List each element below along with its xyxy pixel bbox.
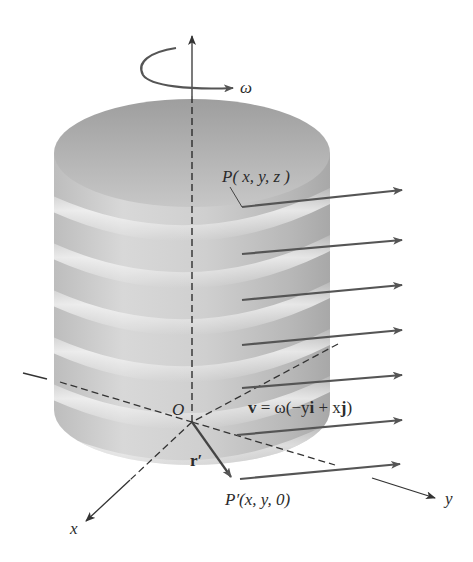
velocity-arrow — [240, 464, 400, 479]
velocity-eq-part2: + x — [314, 398, 341, 417]
omega-label: ω — [240, 78, 252, 97]
point-p-label: P( x, y, z ) — [221, 167, 290, 186]
axis-x-label: x — [69, 519, 78, 538]
point-p-prime-label: P′(x, y, 0) — [224, 490, 290, 509]
velocity-eq-part1: = ω(−y — [257, 398, 311, 417]
velocity-equation: v = ω(−yi + xj) — [248, 398, 352, 417]
rotation-arrow-icon — [141, 48, 233, 88]
r-prime-label: r′ — [190, 451, 202, 470]
velocity-j: j — [340, 398, 347, 417]
cylinder-diagram: ω x y P( x, y, z ) O v = ω(−yi + xj) r′ … — [0, 0, 473, 562]
velocity-eq-close: ) — [347, 398, 353, 417]
axis-y-label: y — [443, 489, 453, 508]
origin-label: O — [172, 400, 184, 419]
